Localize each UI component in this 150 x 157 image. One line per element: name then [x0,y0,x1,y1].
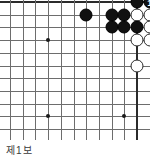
black-stone[interactable] [105,8,118,21]
diagram-caption: 제1보 [6,145,146,157]
board-grid-line-vertical [61,0,62,140]
board-grid-line-vertical [35,0,36,140]
go-diagram-figure: 123 제1보 [0,0,150,157]
go-board[interactable]: 123 [0,0,150,140]
white-stone[interactable] [143,34,150,47]
board-star-point [122,114,126,118]
white-stone[interactable] [131,8,144,21]
white-stone[interactable] [131,59,144,72]
black-stone[interactable] [118,21,131,34]
white-stone[interactable] [143,8,150,21]
white-stone[interactable] [131,34,144,47]
board-grid-line-vertical [10,0,11,140]
board-grid-line-vertical [99,0,100,140]
board-grid-line-vertical [48,0,49,140]
board-grid-line-vertical [74,0,75,140]
black-stone[interactable] [131,21,144,34]
white-stone[interactable] [143,21,150,34]
board-star-point [46,114,50,118]
move-number-label: 1 [144,0,150,8]
board-star-point [46,38,50,42]
black-stone[interactable] [80,8,93,21]
black-stone[interactable] [105,21,118,34]
black-stone[interactable] [118,8,131,21]
board-grid-line-vertical [23,0,24,140]
